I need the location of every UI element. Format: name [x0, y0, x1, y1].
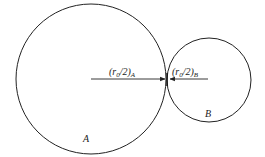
radius-label-a: (r0/2)A	[109, 67, 135, 79]
radius-label-b: (r0/2)B	[172, 67, 198, 79]
circle-label-b: B	[205, 109, 211, 119]
circle-label-a: A	[83, 134, 89, 144]
